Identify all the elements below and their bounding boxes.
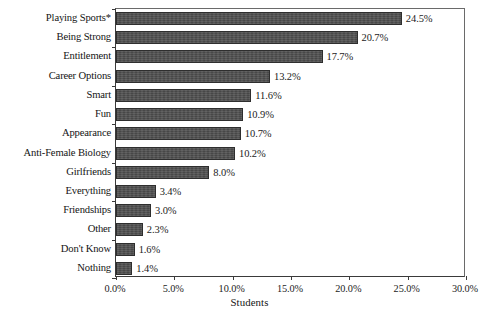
x-axis-title-text: Students xyxy=(231,296,269,308)
y-axis-category-label: Being Strong xyxy=(0,27,111,46)
bar xyxy=(116,108,243,121)
x-axis-tick-label: 20.0% xyxy=(335,283,361,294)
bar-value-label: 20.7% xyxy=(362,29,389,46)
bar-row: 11.6% xyxy=(116,86,464,105)
bar-value-label: 3.0% xyxy=(155,202,176,219)
bar-row: 8.0% xyxy=(116,163,464,182)
bar-value-label: 24.5% xyxy=(406,10,433,27)
y-axis-category-label: Appearance xyxy=(0,123,111,142)
bar xyxy=(116,204,151,217)
bar xyxy=(116,185,156,198)
x-axis-tick-label: 0.0% xyxy=(104,283,125,294)
bar xyxy=(116,50,323,63)
y-axis-category-label: Career Options xyxy=(0,66,111,85)
horizontal-bar-chart: Playing Sports*Being StrongEntitlementCa… xyxy=(0,0,489,316)
x-axis-tick xyxy=(408,276,409,280)
bar-value-label: 13.2% xyxy=(274,68,301,85)
bar-row: 10.2% xyxy=(116,144,464,163)
bar xyxy=(116,223,143,236)
x-axis-tick xyxy=(349,276,350,280)
bar-value-label: 17.7% xyxy=(327,48,354,65)
plot-area: 24.5%20.7%17.7%13.2%11.6%10.9%10.7%10.2%… xyxy=(115,8,465,277)
y-axis-category-label: Playing Sports* xyxy=(0,8,111,27)
bar-row: 1.6% xyxy=(116,240,464,259)
y-axis-category-label: Nothing xyxy=(0,258,111,277)
y-axis-category-label: Don't Know xyxy=(0,239,111,258)
x-axis-tick xyxy=(291,276,292,280)
bar-row: 1.4% xyxy=(116,259,464,278)
bar-value-label: 8.0% xyxy=(213,164,234,181)
bar-row: 2.3% xyxy=(116,220,464,239)
y-axis-category-label: Other xyxy=(0,219,111,238)
y-axis-category-label: Everything xyxy=(0,181,111,200)
x-axis-tick-label: 30.0% xyxy=(452,283,478,294)
bar xyxy=(116,127,241,140)
bar-value-label: 10.9% xyxy=(247,106,274,123)
x-axis-tick xyxy=(174,276,175,280)
y-axis-category-label: Entitlement xyxy=(0,46,111,65)
bar-row: 13.2% xyxy=(116,67,464,86)
x-axis-tick-label: 15.0% xyxy=(277,283,303,294)
x-axis-tick xyxy=(466,276,467,280)
y-axis-category-label: Fun xyxy=(0,104,111,123)
y-axis-category-label: Girlfriends xyxy=(0,162,111,181)
x-axis-tick-label: 5.0% xyxy=(163,283,184,294)
x-axis-tick xyxy=(233,276,234,280)
y-axis-category-label: Smart xyxy=(0,85,111,104)
bar-value-label: 10.7% xyxy=(245,125,272,142)
bar xyxy=(116,31,358,44)
y-axis-category-label: Anti-Female Biology xyxy=(0,143,111,162)
bar xyxy=(116,89,251,102)
bar xyxy=(116,262,132,275)
bar-value-label: 11.6% xyxy=(255,87,281,104)
bar xyxy=(116,243,135,256)
bar xyxy=(116,147,235,160)
bar-value-label: 1.6% xyxy=(139,241,160,258)
bar-row: 3.0% xyxy=(116,201,464,220)
bar-row: 17.7% xyxy=(116,47,464,66)
x-axis-tick-label: 25.0% xyxy=(394,283,420,294)
bar-value-label: 10.2% xyxy=(239,145,266,162)
bar-row: 20.7% xyxy=(116,28,464,47)
y-axis-category-label: Friendships xyxy=(0,200,111,219)
bar-row: 24.5% xyxy=(116,9,464,28)
x-axis-title: Students xyxy=(0,296,489,308)
bar-row: 10.7% xyxy=(116,124,464,143)
bar xyxy=(116,12,402,25)
y-axis-category-labels: Playing Sports*Being StrongEntitlementCa… xyxy=(0,8,111,277)
bar-row: 3.4% xyxy=(116,182,464,201)
x-axis-tick-label: 10.0% xyxy=(219,283,245,294)
bar-value-label: 2.3% xyxy=(147,221,168,238)
y-axis-tick xyxy=(112,9,116,10)
bar-value-label: 1.4% xyxy=(136,260,157,277)
bar-value-label: 3.4% xyxy=(160,183,181,200)
bar xyxy=(116,70,270,83)
bar xyxy=(116,166,209,179)
bar-row: 10.9% xyxy=(116,105,464,124)
x-axis-tick xyxy=(116,276,117,280)
